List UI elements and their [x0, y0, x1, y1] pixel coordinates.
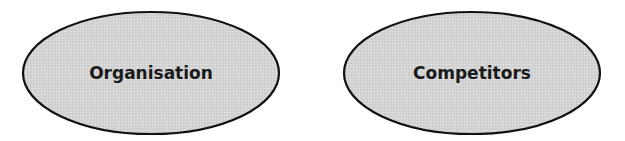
- node-competitors: Competitors: [344, 12, 600, 134]
- label-competitors: Competitors: [413, 63, 531, 83]
- node-organisation: Organisation: [23, 12, 279, 134]
- label-organisation: Organisation: [89, 63, 213, 83]
- diagram-canvas: Organisation Competitors: [0, 0, 625, 141]
